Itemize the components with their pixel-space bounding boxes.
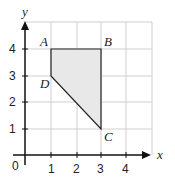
x-tick-4: 4	[122, 162, 129, 176]
x-axis-label: x	[156, 147, 163, 162]
x-tick-2: 2	[73, 162, 80, 176]
y-tick-2: 2	[9, 95, 16, 109]
y-tick-1: 1	[9, 122, 16, 136]
origin-label: 0	[12, 159, 19, 173]
y-tick-4: 4	[9, 42, 16, 56]
quadrilateral-abcd	[51, 49, 101, 129]
point-label-c: C	[104, 129, 113, 144]
point-label-a: A	[39, 34, 48, 49]
x-tick-1: 1	[48, 162, 55, 176]
point-label-b: B	[104, 34, 112, 49]
y-axis-label: y	[20, 4, 28, 19]
x-tick-3: 3	[97, 162, 104, 176]
coordinate-grid-chart: x y 0 1 2 3 4 1 2 3 4 A B C D	[0, 0, 175, 185]
x-axis-arrow-icon	[142, 151, 151, 159]
point-label-d: D	[39, 76, 50, 91]
y-tick-3: 3	[9, 69, 16, 83]
